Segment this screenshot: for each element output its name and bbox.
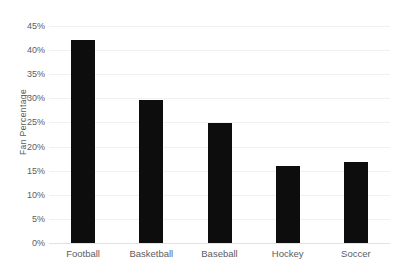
bar: [208, 123, 232, 243]
bar: [71, 40, 95, 243]
gridline: [49, 243, 390, 244]
y-axis-tick-label: 20%: [1, 142, 45, 152]
y-axis-tick-label: 25%: [1, 117, 45, 127]
y-axis-tick-label: 30%: [1, 93, 45, 103]
y-axis-tick-label: 10%: [1, 190, 45, 200]
y-axis-tick-label: 40%: [1, 45, 45, 55]
bar: [344, 162, 368, 243]
gridline: [49, 98, 390, 99]
x-axis-tick-label: Football: [66, 248, 100, 259]
x-axis-tick-label: Soccer: [341, 248, 371, 259]
y-axis-tick-label: 5%: [1, 214, 45, 224]
y-axis-tick-labels: 0%5%10%15%20%25%30%35%40%45%: [0, 26, 45, 243]
y-axis-tick-label: 15%: [1, 166, 45, 176]
y-axis-tick-label: 0%: [1, 238, 45, 248]
x-axis-tick-labels: FootballBasketballBaseballHockeySoccer: [49, 248, 390, 268]
bar: [139, 100, 163, 243]
gridline: [49, 74, 390, 75]
x-axis-tick-label: Basketball: [129, 248, 173, 259]
gridline: [49, 26, 390, 27]
gridline: [49, 50, 390, 51]
x-axis-tick-label: Hockey: [272, 248, 304, 259]
bar: [276, 166, 300, 243]
bar-chart: Fan Percentage 0%5%10%15%20%25%30%35%40%…: [0, 0, 404, 277]
y-axis-tick-label: 45%: [1, 21, 45, 31]
x-axis-tick-label: Baseball: [201, 248, 237, 259]
plot-area: [49, 26, 390, 243]
y-axis-tick-label: 35%: [1, 69, 45, 79]
